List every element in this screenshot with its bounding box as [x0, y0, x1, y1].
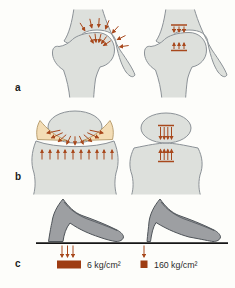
- stiletto-pressure-label: 160 kg/cm²: [154, 260, 198, 270]
- tibia-right: [130, 143, 202, 197]
- joint-pressure-figure: a: [0, 0, 235, 288]
- panel-a-hip-joints: [52, 8, 227, 100]
- broad-heel-pressure-label: 6 kg/cm²: [87, 260, 121, 270]
- femoral-condyle-right: [141, 113, 191, 143]
- figure-canvas: a: [0, 0, 235, 288]
- broad-heel-pressure-arrows: [62, 246, 73, 258]
- broad-heel-contact-area: [57, 261, 81, 269]
- panel-letter-a: a: [15, 82, 21, 93]
- panel-letter-c: c: [15, 258, 21, 269]
- tibia-left: [32, 141, 118, 197]
- hip-joint-distributed: [52, 8, 135, 100]
- panel-letter-b: b: [15, 171, 21, 182]
- hip-joint-concentrated: [144, 8, 227, 100]
- panel-b-knee-joints: [32, 111, 202, 197]
- stiletto-contact-area: [141, 261, 148, 269]
- shoe-stiletto-heel: [147, 199, 221, 242]
- panel-c-heel-pressure: 6 kg/cm² 160 kg/cm²: [36, 199, 228, 270]
- shoe-broad-heel: [49, 199, 124, 242]
